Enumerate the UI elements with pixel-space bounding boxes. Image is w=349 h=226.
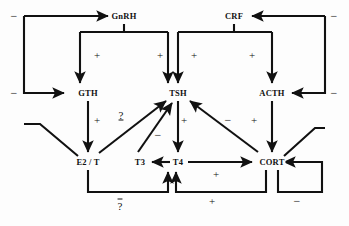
edge-cort-self-loop <box>278 162 322 192</box>
node-t3[interactable]: T3 <box>134 158 146 167</box>
sign-cort-crf-negative: − <box>331 10 338 22</box>
node-gth[interactable]: GTH <box>77 89 99 98</box>
sign-gnrh-gth-positive: + <box>94 50 100 61</box>
sign-acth-cort-positive: + <box>251 115 257 126</box>
node-gnrh[interactable]: GnRH <box>111 12 138 21</box>
node-tsh[interactable]: TSH <box>168 89 188 98</box>
sign-e2t-gth-negative: − <box>11 87 18 99</box>
sign-cort-acth-negative: − <box>331 87 338 99</box>
sign-crf-tsh-positive: + <box>191 50 197 61</box>
edge-cort-elbow <box>284 128 325 156</box>
edge-e2t-to-thyroid <box>88 170 168 192</box>
sign-cort-thyroid-positive: + <box>209 196 215 207</box>
sign-gnrh-tsh-positive: + <box>157 50 163 61</box>
sign-gth-e2t-positive: + <box>94 115 100 126</box>
sign-t3-tsh-negative: − <box>155 129 162 141</box>
node-cort[interactable]: CORT <box>258 158 285 167</box>
edge-right-trunk-to-acth <box>292 16 325 93</box>
node-crf[interactable]: CRF <box>224 12 244 21</box>
node-acth[interactable]: ACTH <box>258 89 285 98</box>
sign-e2t-thyroid-unknown: ? <box>118 201 123 212</box>
sign-e2t-gnrh-negative: − <box>11 10 18 22</box>
edge-e2t-elbow <box>24 124 78 156</box>
sign-cort-tsh-negative: − <box>225 114 232 126</box>
sign-tsh-t4-positive: + <box>181 115 187 126</box>
node-t4[interactable]: T4 <box>172 158 184 167</box>
sign-e2t-tsh-unknown: ? <box>119 110 124 121</box>
node-e2t[interactable]: E2 / T <box>75 158 100 167</box>
edge-cort-to-thyroid <box>176 170 266 192</box>
diagram-canvas: GnRH CRF GTH TSH ACTH E2 / T T3 T4 CORT … <box>0 0 349 226</box>
sign-crf-acth-positive: + <box>249 50 255 61</box>
edge-left-trunk-to-gth <box>24 16 64 93</box>
sign-t4-cort-positive: + <box>213 169 219 180</box>
sign-cort-self-negative: − <box>294 195 301 207</box>
feedback-diagram-svg <box>0 0 349 226</box>
